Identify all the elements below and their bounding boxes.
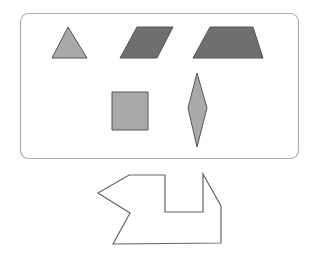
composite-outline-figure bbox=[98, 174, 221, 244]
square-shape bbox=[112, 92, 148, 130]
geometry-diagram bbox=[0, 0, 312, 266]
